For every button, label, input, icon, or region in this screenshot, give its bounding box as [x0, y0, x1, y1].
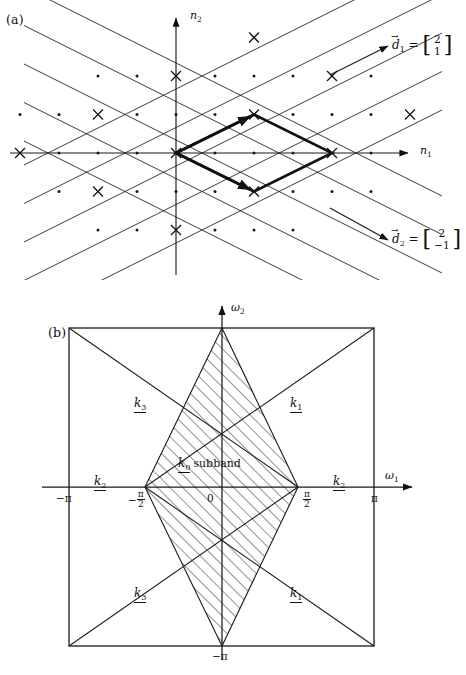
vector-matrix-d2: [ 2 −1 ]: [423, 227, 462, 251]
lattice-lines-d1: [24, 0, 442, 280]
vector-arrow-d2: →: [391, 226, 399, 235]
vector-annotation-arrows: [330, 46, 388, 240]
vector-arrow-d1: →: [391, 32, 399, 41]
axis-label-omega1: ω1: [385, 470, 399, 484]
region-label-k1-upper: k1: [290, 392, 302, 413]
tick-label-minus-pi-y: −π: [212, 650, 228, 662]
panel-b-tag: (b): [48, 325, 66, 340]
axis-label-n2: n2: [190, 10, 202, 24]
region-label-k0-subband: k0subband: [178, 452, 241, 473]
tick-label-pi-x: π: [371, 492, 378, 504]
panel-a: (a): [0, 0, 466, 280]
region-label-k3-upper: k3: [134, 392, 146, 413]
figure-root: (a): [0, 0, 466, 675]
region-label-k1-lower: k1: [290, 582, 302, 603]
panel-a-axes: [10, 18, 408, 275]
tick-label-minus-pi-over-2: − π 2: [128, 490, 145, 510]
axis-label-omega2: ω2: [231, 302, 245, 316]
panel-b: (b): [0, 280, 466, 675]
vector-label-d1: →d1 = [ 2 1 ]: [392, 33, 452, 57]
lattice-lines-d2: [24, 0, 442, 280]
vector-matrix-d1: [ 2 1 ]: [423, 33, 453, 57]
region-label-k2-right: k2: [333, 470, 345, 491]
panel-a-tag: (a): [6, 12, 24, 27]
vector-label-d2: →d2 = [ 2 −1 ]: [392, 227, 461, 251]
axis-label-n1: n1: [420, 145, 432, 159]
tick-label-pi-over-2: π 2: [303, 490, 311, 510]
region-label-k3-lower: k3: [134, 582, 146, 603]
tick-label-origin: 0: [207, 492, 214, 504]
tick-label-minus-pi-x: −π: [56, 492, 72, 504]
region-label-k2-left: k2: [94, 470, 106, 491]
